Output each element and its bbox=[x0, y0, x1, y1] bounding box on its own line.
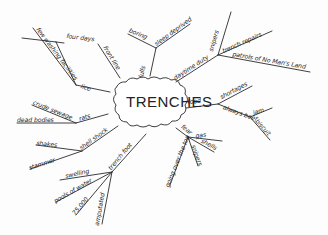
node-dead-bodies: dead bodies bbox=[17, 117, 54, 123]
mind-map-canvas: TRENCHES lice few washing facilities fou… bbox=[0, 0, 328, 235]
